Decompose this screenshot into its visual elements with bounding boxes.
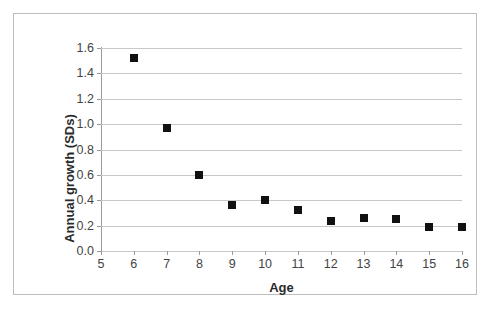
gridline-y — [101, 150, 462, 151]
y-tick-label: 1.6 — [77, 42, 94, 55]
x-axis-tick-labels: 5678910111213141516 — [101, 258, 462, 276]
x-tick-mark — [265, 251, 266, 255]
x-tick-label: 11 — [291, 258, 304, 271]
y-tick-label: 1.0 — [77, 118, 94, 131]
x-tick-mark — [396, 251, 397, 255]
y-tick-mark — [97, 124, 101, 125]
gridline-y — [101, 73, 462, 74]
y-tick-label: 1.4 — [77, 67, 94, 80]
gridline-y — [101, 226, 462, 227]
data-point — [130, 54, 138, 62]
gridline-y — [101, 251, 462, 252]
data-point — [294, 206, 302, 214]
gridline-y — [101, 48, 462, 49]
x-tick-label: 10 — [258, 258, 272, 271]
y-tick-mark — [97, 150, 101, 151]
data-point — [261, 196, 269, 204]
x-tick-mark — [167, 251, 168, 255]
y-tick-label: 0.6 — [77, 169, 94, 182]
data-point — [360, 214, 368, 222]
x-tick-label: 16 — [455, 258, 469, 271]
x-axis-title: Age — [101, 280, 462, 295]
x-tick-label: 13 — [357, 258, 371, 271]
x-tick-label: 14 — [389, 258, 403, 271]
figure-canvas: Annual growth (SDs) 0.00.20.40.60.81.01.… — [0, 0, 492, 314]
x-tick-label: 12 — [324, 258, 338, 271]
y-tick-mark — [97, 99, 101, 100]
x-tick-mark — [101, 251, 102, 255]
x-tick-label: 5 — [98, 258, 105, 271]
x-tick-mark — [232, 251, 233, 255]
data-point — [195, 171, 203, 179]
x-tick-label: 6 — [130, 258, 137, 271]
x-tick-label: 7 — [163, 258, 170, 271]
y-tick-mark — [97, 226, 101, 227]
x-tick-mark — [364, 251, 365, 255]
y-tick-label: 0.4 — [77, 194, 94, 207]
chart-frame: Annual growth (SDs) 0.00.20.40.60.81.01.… — [13, 13, 477, 295]
y-tick-label: 0.8 — [77, 144, 94, 157]
data-point — [327, 217, 335, 225]
x-tick-label: 9 — [229, 258, 236, 271]
plot-area — [101, 48, 462, 251]
x-tick-mark — [331, 251, 332, 255]
y-axis-tick-labels: 0.00.20.40.60.81.01.21.41.6 — [62, 48, 94, 251]
y-tick-label: 0.0 — [77, 245, 94, 258]
x-tick-label: 15 — [422, 258, 436, 271]
gridline-y — [101, 99, 462, 100]
data-point — [425, 223, 433, 231]
y-tick-label: 1.2 — [77, 93, 94, 106]
gridline-y — [101, 175, 462, 176]
data-point — [228, 201, 236, 209]
y-tick-mark — [97, 73, 101, 74]
data-point — [458, 223, 466, 231]
x-tick-mark — [298, 251, 299, 255]
gridline-y — [101, 200, 462, 201]
x-tick-mark — [462, 251, 463, 255]
y-tick-mark — [97, 200, 101, 201]
gridline-y — [101, 124, 462, 125]
x-tick-mark — [199, 251, 200, 255]
y-tick-mark — [97, 48, 101, 49]
y-tick-label: 0.2 — [77, 220, 94, 233]
x-tick-mark — [134, 251, 135, 255]
data-point — [163, 124, 171, 132]
x-tick-mark — [429, 251, 430, 255]
y-tick-mark — [97, 175, 101, 176]
x-tick-label: 8 — [196, 258, 203, 271]
data-point — [392, 215, 400, 223]
